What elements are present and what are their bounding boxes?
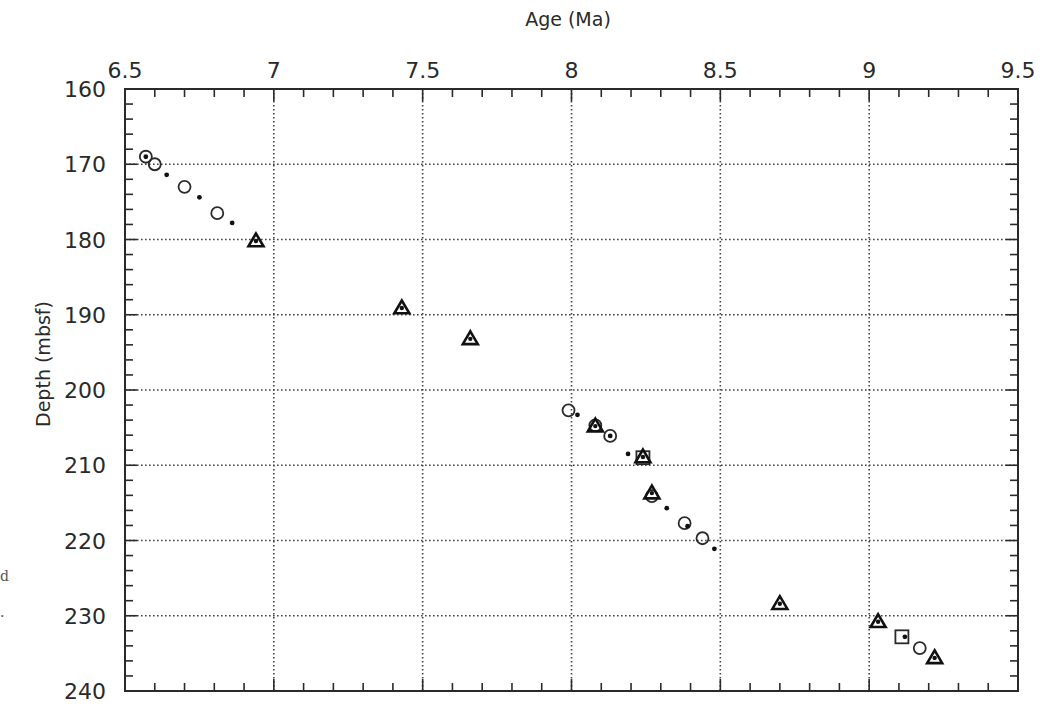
open-circle-marker bbox=[211, 207, 223, 219]
y-tick-label: 200 bbox=[64, 378, 106, 403]
open-circle-marker bbox=[179, 181, 191, 193]
x-tick-labels: 6.577.588.599.5 bbox=[108, 58, 1036, 83]
x-tick-label: 6.5 bbox=[108, 58, 143, 83]
y-tick-label: 170 bbox=[64, 152, 106, 177]
y-tick-label: 180 bbox=[64, 228, 106, 253]
dot-marker bbox=[685, 524, 690, 529]
y-tick-label: 240 bbox=[64, 679, 106, 704]
stray-mark: . bbox=[0, 604, 4, 620]
x-axis-title: Age (Ma) bbox=[525, 8, 611, 30]
dot-marker bbox=[164, 172, 169, 177]
x-tick-label: 8 bbox=[565, 58, 579, 83]
dot-marker bbox=[712, 546, 717, 551]
x-tick-label: 8.5 bbox=[703, 58, 738, 83]
dot-marker bbox=[626, 452, 631, 457]
y-tick-label: 220 bbox=[64, 529, 106, 554]
data-points bbox=[140, 151, 942, 663]
open-circle-marker bbox=[563, 404, 575, 416]
dot-marker bbox=[197, 195, 202, 200]
grid-lines bbox=[125, 89, 1018, 691]
open-circle-marker bbox=[696, 532, 708, 544]
dot-marker bbox=[902, 634, 907, 639]
x-tick-label: 9 bbox=[862, 58, 876, 83]
dot-marker bbox=[608, 434, 613, 439]
dot-marker bbox=[230, 221, 235, 226]
dot-marker bbox=[664, 506, 669, 511]
dot-marker bbox=[143, 154, 148, 159]
age-depth-scatter-chart: 6.577.588.599.5 160170180190200210220230… bbox=[0, 0, 1053, 725]
stray-mark: d bbox=[0, 568, 9, 584]
y-tick-label: 210 bbox=[64, 453, 106, 478]
y-tick-labels: 160170180190200210220230240 bbox=[64, 77, 106, 704]
x-tick-label: 7 bbox=[267, 58, 281, 83]
open-circle-marker bbox=[914, 642, 926, 654]
dot-marker bbox=[575, 412, 580, 417]
y-tick-label: 160 bbox=[64, 77, 106, 102]
y-tick-label: 190 bbox=[64, 303, 106, 328]
y-axis-title: Depth (mbsf) bbox=[32, 301, 54, 427]
y-tick-label: 230 bbox=[64, 604, 106, 629]
x-tick-label: 7.5 bbox=[405, 58, 440, 83]
x-tick-label: 9.5 bbox=[1001, 58, 1036, 83]
